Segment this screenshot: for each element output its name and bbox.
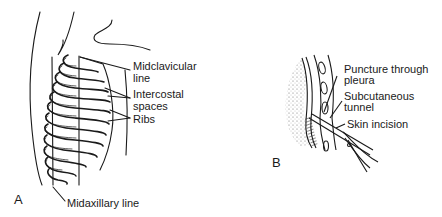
label-tunnel: tunnel	[344, 101, 374, 113]
panel-letter-a: A	[14, 193, 23, 207]
figure: Midclavicular line Intercostal spaces Ri…	[0, 0, 442, 217]
label-ribs: Ribs	[133, 113, 155, 125]
label-midaxillary-line: Midaxillary line	[67, 197, 139, 209]
panel-letter-b: B	[272, 156, 281, 170]
label-skin-incision: Skin incision	[347, 118, 408, 130]
label-intercostal-spaces: spaces	[133, 100, 168, 112]
panel-a-illustration	[0, 0, 442, 217]
label-pleura: pleura	[344, 74, 375, 86]
label-intercostal: Intercostal	[133, 88, 184, 100]
label-midclavicular-line: line	[133, 72, 150, 84]
label-midclavicular: Midclavicular	[133, 60, 197, 72]
